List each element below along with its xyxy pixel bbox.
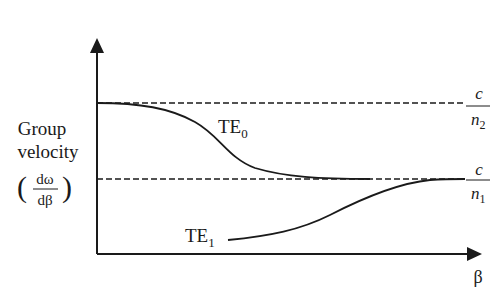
svg-text:c: c: [475, 84, 483, 103]
svg-text:n1: n1: [471, 184, 486, 206]
label-c-over-n2: c n2: [466, 84, 490, 132]
x-axis-label: β: [473, 267, 482, 287]
svg-text:(: (: [17, 170, 27, 204]
te0-label: TE0: [218, 116, 248, 141]
svg-text:): ): [62, 170, 72, 204]
x-axis-arrow-icon: [467, 247, 482, 261]
svg-text:Group: Group: [18, 118, 67, 139]
x-axis: [97, 247, 482, 261]
y-axis-arrow-icon: [90, 38, 104, 53]
y-axis-label: Group velocity ( dω dβ ): [17, 118, 79, 208]
svg-text:velocity: velocity: [17, 141, 79, 162]
svg-text:dω: dω: [36, 171, 54, 187]
svg-text:c: c: [475, 160, 483, 179]
label-c-over-n1: c n1: [466, 160, 490, 206]
svg-text:dβ: dβ: [37, 192, 52, 208]
te1-label: TE1: [185, 225, 215, 250]
y-axis: [90, 38, 104, 254]
svg-text:n2: n2: [471, 110, 486, 132]
curve-te1: [228, 179, 465, 240]
curve-te0: [97, 103, 370, 179]
group-velocity-diagram: TE0 TE1 c n2 c n1 β Group velocity ( dω …: [0, 0, 497, 290]
